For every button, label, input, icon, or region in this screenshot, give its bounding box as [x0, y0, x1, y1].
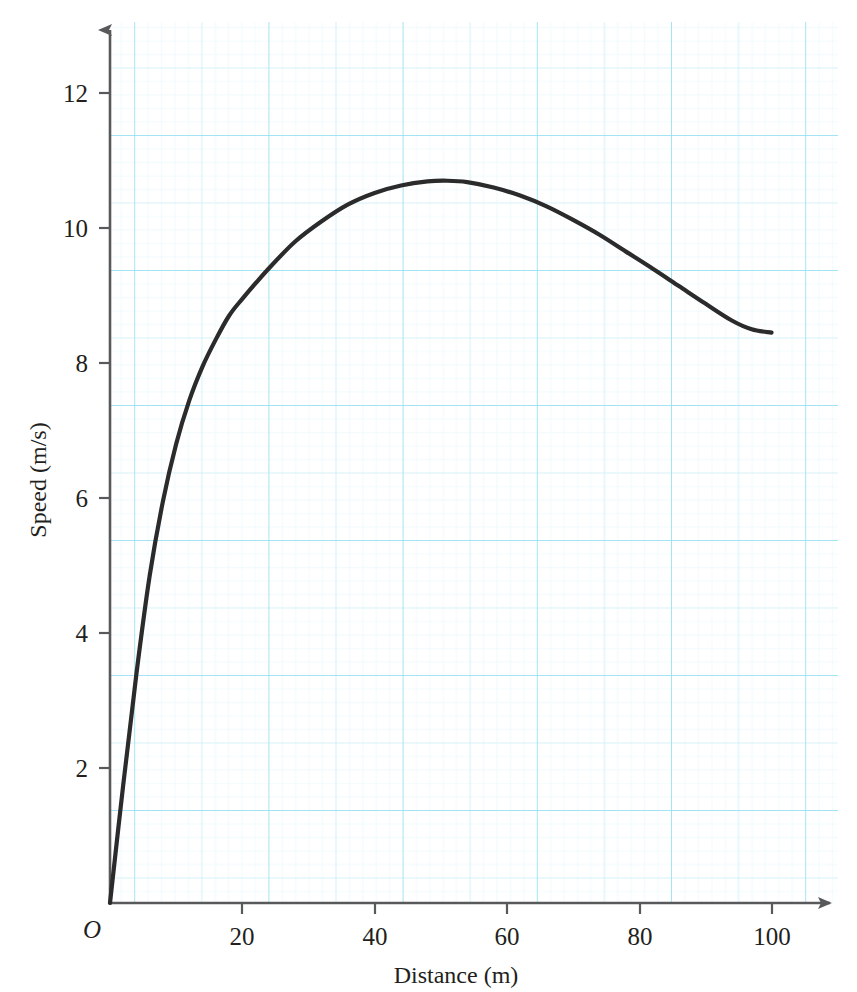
x-tick-label-60: 60	[495, 923, 520, 950]
y-tick-label-8: 8	[76, 350, 89, 377]
y-tick-label-4: 4	[76, 620, 89, 647]
speed-distance-chart: 2 4 6 8 10 12 20 40 60 80 100 O Distance…	[0, 0, 857, 992]
y-tick-label-6: 6	[76, 485, 89, 512]
origin-label: O	[83, 916, 101, 943]
graph-figure: 2 4 6 8 10 12 20 40 60 80 100 O Distance…	[0, 0, 857, 992]
y-tick-label-10: 10	[63, 215, 88, 242]
y-axis-title: Speed (m/s)	[25, 422, 51, 537]
x-tick-label-100: 100	[753, 923, 791, 950]
y-tick-label-2: 2	[76, 755, 89, 782]
grid-area	[110, 22, 838, 903]
x-tick-label-40: 40	[363, 923, 388, 950]
x-axis-title: Distance (m)	[394, 962, 519, 988]
y-tick-label-12: 12	[63, 80, 88, 107]
x-tick-label-20: 20	[230, 923, 255, 950]
x-tick-label-80: 80	[628, 923, 653, 950]
